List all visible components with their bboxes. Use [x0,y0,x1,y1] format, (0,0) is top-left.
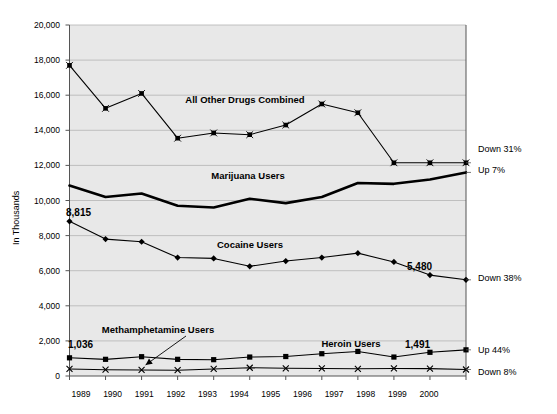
y-tick-label: 18,000 [8,56,60,65]
series-label-marijuana: Marijuana Users [211,171,284,181]
cocaine-start-value: 8,815 [66,208,91,218]
y-tick-label: 10,000 [8,196,60,205]
data-point-marker [283,354,288,359]
y-tick-label: 4,000 [8,302,60,311]
y-tick-label: 2,000 [8,337,60,346]
data-point-marker [355,349,360,354]
x-tick-label: 1998 [356,390,375,399]
x-tick-label: 1990 [103,390,122,399]
right-note-heroin: Up 44% [478,346,510,355]
y-tick-label: 14,000 [8,126,60,135]
x-tick-label: 1989 [72,390,91,399]
x-tick-label: 1993 [198,390,217,399]
data-point-marker [175,357,180,362]
cocaine-end-value: 5,480 [407,262,432,272]
drug-use-trend-chart: In Thousands 20,000 18,000 16,000 14,000… [0,0,557,414]
x-tick-label: 1999 [388,390,407,399]
right-note-methamphetamine: Down 8% [478,368,517,377]
x-tick-label: 1995 [261,390,280,399]
series-label-cocaine: Cocaine Users [217,240,283,250]
y-tick-label: 12,000 [8,161,60,170]
x-tick-label: 1996 [293,390,312,399]
heroin-start-value: 1,036 [68,340,93,350]
y-tick-label: 0 [8,372,60,381]
data-point-marker [67,355,72,360]
right-note-cocaine: Down 38% [478,274,522,283]
x-tick-label: 1997 [325,390,344,399]
x-tick-label: 1991 [135,390,154,399]
right-note-all-other-drugs: Down 31% [478,145,522,154]
y-tick-label: 20,000 [8,21,60,30]
data-point-marker [139,354,144,359]
series-label-heroin: Heroin Users [321,339,380,349]
right-note-marijuana: Up 7% [478,166,505,175]
series-label-all-other-drugs: All Other Drugs Combined [185,95,304,105]
data-point-marker [211,357,216,362]
y-tick-label: 16,000 [8,91,60,100]
y-tick-label: 8,000 [8,231,60,240]
data-point-marker [247,354,252,359]
heroin-end-value: 1,491 [405,340,430,350]
x-tick-label: 2000 [420,390,439,399]
data-point-marker [103,357,108,362]
y-tick-label: 6,000 [8,266,60,275]
x-tick-label: 1994 [230,390,249,399]
data-point-marker [319,351,324,356]
series-label-methamphetamine: Methamphetamine Users [102,325,214,335]
data-point-marker [427,350,432,355]
data-point-marker [391,354,396,359]
x-tick-label: 1992 [166,390,185,399]
